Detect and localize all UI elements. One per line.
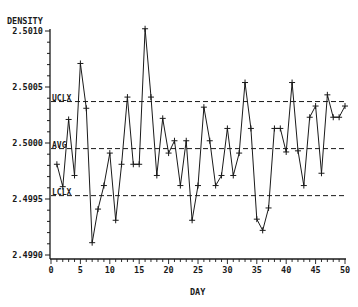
plus-marker-icon — [324, 92, 330, 98]
plus-marker-icon — [266, 205, 272, 211]
plus-marker-icon — [342, 103, 348, 109]
plus-marker-icon — [177, 183, 183, 189]
plus-marker-icon — [183, 138, 189, 144]
plus-marker-icon — [171, 138, 177, 144]
plus-marker-icon — [54, 161, 60, 167]
x-tick-label: 0 — [48, 265, 53, 275]
x-tick-label: 35 — [252, 265, 262, 275]
y-tick-label: 2.5000 — [12, 138, 43, 148]
plus-marker-icon — [301, 183, 307, 189]
plus-marker-icon — [330, 114, 336, 120]
plus-marker-icon — [113, 217, 119, 223]
plus-marker-icon — [72, 172, 78, 178]
control-chart: 2.49902.49952.50002.50052.50100510152025… — [0, 0, 358, 307]
plus-marker-icon — [219, 172, 225, 178]
plus-marker-icon — [224, 125, 230, 131]
x-tick-label: 20 — [163, 265, 173, 275]
y-tick-label: 2.4995 — [12, 194, 43, 204]
plus-marker-icon — [254, 216, 260, 222]
plus-marker-icon — [318, 170, 324, 176]
x-tick-label: 5 — [78, 265, 83, 275]
plus-marker-icon — [236, 150, 242, 156]
y-tick-label: 2.4990 — [12, 250, 43, 260]
x-axis-title: DAY — [190, 287, 206, 297]
x-tick-label: 30 — [222, 265, 232, 275]
x-tick-label: 10 — [105, 265, 115, 275]
plus-marker-icon — [307, 114, 313, 120]
plus-marker-icon — [213, 183, 219, 189]
plus-marker-icon — [124, 94, 130, 100]
density-line — [57, 29, 345, 243]
plus-marker-icon — [283, 149, 289, 155]
plus-marker-icon — [107, 150, 113, 156]
y-axis-title: DENSITY — [7, 16, 44, 26]
plus-marker-icon — [207, 138, 213, 144]
plus-marker-icon — [189, 217, 195, 223]
x-tick-label: 15 — [134, 265, 144, 275]
y-tick-label: 2.5010 — [12, 26, 43, 36]
plus-marker-icon — [142, 26, 148, 32]
plus-marker-icon — [271, 125, 277, 131]
plus-marker-icon — [230, 172, 236, 178]
plus-marker-icon — [101, 183, 107, 189]
plus-marker-icon — [136, 161, 142, 167]
x-tick-label: 40 — [281, 265, 291, 275]
plus-marker-icon — [119, 161, 125, 167]
plus-marker-icon — [83, 105, 89, 111]
plus-marker-icon — [130, 161, 136, 167]
plus-marker-icon — [195, 183, 201, 189]
plus-marker-icon — [148, 94, 154, 100]
plus-marker-icon — [66, 116, 72, 122]
plus-marker-icon — [248, 125, 254, 131]
plus-marker-icon — [89, 240, 95, 246]
plus-marker-icon — [166, 150, 172, 156]
plus-marker-icon — [336, 114, 342, 120]
plus-marker-icon — [95, 206, 101, 212]
plus-marker-icon — [160, 115, 166, 121]
plus-marker-icon — [201, 104, 207, 110]
data-series — [54, 26, 348, 246]
plus-marker-icon — [260, 227, 266, 233]
x-tick-label: 50 — [340, 265, 350, 275]
avg-label: AVG — [52, 141, 67, 150]
x-tick-label: 45 — [310, 265, 320, 275]
plus-marker-icon — [277, 125, 283, 131]
plus-marker-icon — [242, 80, 248, 86]
y-tick-label: 2.5005 — [12, 82, 43, 92]
plus-marker-icon — [289, 80, 295, 86]
x-tick-label: 25 — [193, 265, 203, 275]
plus-marker-icon — [313, 103, 319, 109]
plus-marker-icon — [77, 60, 83, 66]
uclx-label: UCLX — [52, 94, 71, 103]
plus-marker-icon — [154, 172, 160, 178]
lclx-label: LCLX — [52, 188, 71, 197]
